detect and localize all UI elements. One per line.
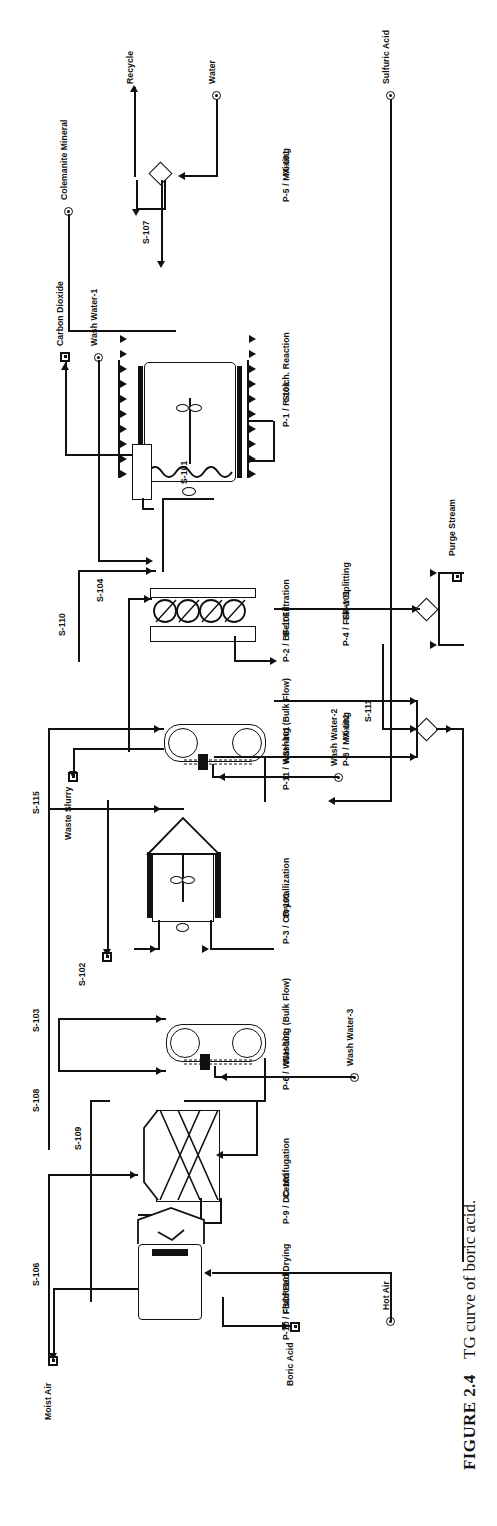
arrow-cryst-bot (202, 945, 209, 953)
label-purge-stream: Purge Stream (448, 499, 458, 556)
line-fsp-out-a-v (438, 644, 464, 646)
arrow-s108-a (156, 1067, 163, 1075)
arrow-waste-slurry (69, 771, 77, 778)
arrow-sulfuric-acid (328, 797, 335, 805)
label-s106: S-106 (32, 1263, 42, 1286)
label-mixing-2: Mixing (342, 712, 352, 740)
label-recycle: Recycle (126, 51, 136, 84)
line-moist-air-h (53, 1290, 55, 1356)
dryer-cone-icon (134, 1210, 208, 1320)
arrow-s115 (154, 725, 161, 733)
line-moist-air-v (53, 1288, 139, 1290)
line-mx101-in-a (136, 180, 138, 210)
line-condenser-out-b (142, 508, 154, 510)
line-fsp-out-b (438, 572, 440, 610)
arrow-water (178, 172, 185, 180)
line-feed-a (247, 420, 273, 422)
line-sulfuric-acid-riser (334, 800, 391, 802)
line-wsh102-out-v (184, 1100, 264, 1102)
arrow-fsp-b (430, 569, 437, 577)
line-water (216, 99, 218, 177)
line-dc101-in (220, 1154, 256, 1156)
washer-wsh-102-roller-top (170, 1028, 200, 1058)
arrow-fsp-in (412, 605, 419, 613)
line-ww3-riser (214, 1076, 354, 1078)
line-s109-v (90, 1100, 110, 1102)
label-crystallization: Crystallization (282, 858, 292, 918)
figure-number: FIGURE 2.4 (460, 1374, 479, 1470)
label-s102: S-102 (78, 963, 88, 986)
label-water: Water (208, 60, 218, 84)
label-sulfuric-acid: Sulfuric Acid (382, 30, 392, 84)
line-recycle (134, 87, 136, 177)
arrow-ww3 (220, 1073, 227, 1081)
label-flow-splitting: Flow Splitting (342, 562, 352, 620)
reactor-jacket-bottom (249, 328, 256, 478)
arrow-fsp-a (430, 641, 437, 649)
washer-wsh-101-roller-bottom (232, 728, 262, 758)
crystallizer-nozzle (176, 923, 189, 932)
label-mixing-1: Mixing (282, 148, 292, 176)
reactor-jacket-top-line (118, 360, 120, 478)
figure-page: Water Sulfuric Acid Recycle P-5 / MX-101… (0, 0, 497, 1526)
centrifuge-dc-101-zigzag-icon (138, 1108, 222, 1202)
label-s110: S-110 (58, 613, 68, 636)
crystallizer-bottom-bar (215, 852, 221, 918)
label-carbon-dioxide: Carbon Dioxide (56, 281, 66, 346)
arrow-s103 (154, 805, 161, 813)
line-s106 (48, 1176, 50, 1364)
label-washing-bulk-flow-2: Washing (Bulk Flow) (282, 978, 292, 1064)
line-wsh101-out (264, 758, 266, 802)
reactor-nozzle (182, 487, 196, 496)
line-cryst-in-bot (210, 920, 212, 950)
line-mx102-out-h (462, 728, 464, 1262)
line-s101-h (162, 498, 164, 572)
belt-filter-left-rail (150, 626, 256, 642)
line-wash-water-1 (98, 360, 100, 562)
line-s106-v (48, 1174, 138, 1176)
line-s102 (107, 800, 109, 950)
arrow-ww1 (146, 557, 153, 565)
line-feed-c (273, 421, 275, 462)
label-s108: S-108 (32, 1089, 42, 1112)
line-water-riser (184, 175, 217, 177)
line-fsp-in (330, 608, 420, 610)
line-s115-v (48, 728, 164, 730)
arrow-s110 (146, 567, 153, 575)
label-centrifugation: Centrifugation (282, 1138, 292, 1198)
line-dc101-in-h (256, 1100, 258, 1156)
line-s109 (90, 1102, 92, 1302)
line-hot-air-h (390, 1274, 392, 1322)
output-port-purge-stream (452, 572, 462, 582)
label-moist-air: Moist Air (44, 1383, 54, 1420)
line-ww2-riser (212, 776, 338, 778)
label-s111: S-111 (364, 700, 374, 722)
line-mx101-in-c (164, 180, 166, 210)
arrow-moist-air (49, 1353, 57, 1360)
line-mx102-in-a (334, 756, 416, 758)
label-washing-bulk-flow-1: Washing (Bulk Flow) (282, 678, 292, 764)
arrow-dc101-in (216, 1151, 223, 1159)
line-bf-out (234, 636, 236, 662)
line-cryst-in-bot-v (210, 948, 274, 950)
crystallizer-cone-icon (146, 816, 221, 856)
arrow-s104 (144, 595, 151, 603)
label-s103: S-103 (32, 1009, 42, 1032)
line-s110-v (78, 570, 156, 572)
label-s104: S-104 (96, 579, 106, 602)
line-s110-h (78, 570, 80, 662)
line-ww3-to-spray (214, 1066, 216, 1078)
reactor-condenser (132, 444, 152, 500)
washer-wsh-102-hatch-icon (184, 1056, 254, 1066)
line-mx102-in-c (334, 700, 416, 702)
riser-b (274, 700, 334, 702)
arrow-mx102-out (446, 725, 453, 733)
riser-c (274, 608, 334, 610)
line-fsp-out-a (438, 608, 440, 646)
line-s103-v (48, 808, 184, 810)
label-s101: S-101 (180, 461, 190, 484)
crystallizer-top-bar (147, 852, 153, 918)
line-s111 (382, 644, 384, 730)
arrow-s108-b (156, 1015, 163, 1023)
washer-wsh-101-roller-top (168, 728, 198, 758)
